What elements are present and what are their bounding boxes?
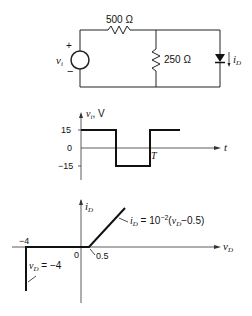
char-y-label: iD: [85, 200, 93, 214]
current-arrowhead-icon: [228, 63, 231, 67]
waveform-y-arrow-icon: [79, 112, 83, 118]
diode-icon: [215, 54, 225, 62]
knee-pointer-icon: [90, 249, 95, 255]
waveform-y-label: vi, V: [86, 108, 105, 121]
series-resistor-label: 500 Ω: [106, 14, 133, 25]
diode-current-label: iD: [233, 53, 241, 67]
shunt-resistor-symbol: [152, 49, 160, 71]
char-y-arrow-icon: [79, 199, 83, 205]
reverse-equation: vD = −4: [29, 260, 62, 273]
period-label: T: [151, 150, 158, 161]
forward-equation: iD = 10−2(vD−0.5): [130, 214, 204, 228]
waveform-x-arrow-icon: [214, 146, 221, 150]
char-x-arrow-icon: [214, 245, 221, 249]
tick-label-15: 15: [61, 125, 71, 135]
voltage-source-icon: [71, 51, 89, 69]
tick-label-neg15: −15: [58, 161, 73, 171]
source-label: vi: [56, 54, 63, 68]
reverse-eq-pointer-icon: [28, 276, 36, 282]
shunt-resistor-label: 250 Ω: [164, 54, 191, 65]
char-x-label: vD: [223, 240, 233, 254]
circuit-schematic: [71, 26, 231, 87]
series-resistor-symbol: [108, 26, 130, 34]
origin-label: 0: [74, 250, 79, 260]
plus-sign: +: [66, 40, 72, 51]
minus-sign: −: [67, 65, 73, 77]
knee-tick-label: 0.5: [96, 251, 109, 261]
tick-label-0: 0: [67, 143, 72, 153]
waveform-x-label: t: [224, 141, 228, 153]
forward-eq-pointer-icon: [119, 218, 128, 222]
breakdown-tick-label: −4: [19, 236, 29, 246]
